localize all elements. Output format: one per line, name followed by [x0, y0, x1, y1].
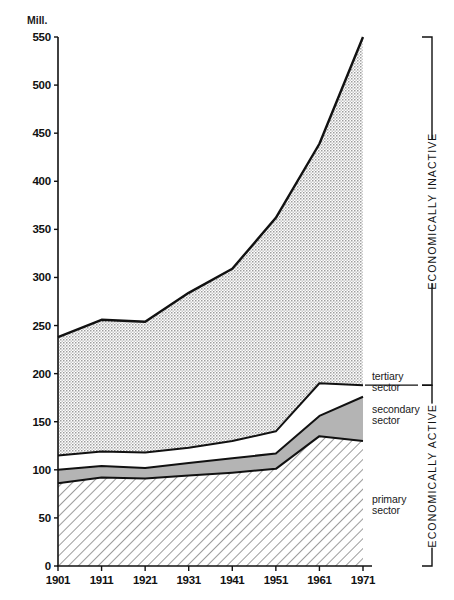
x-tick-label: 1961 [307, 574, 332, 586]
y-tick-label: 350 [32, 223, 51, 235]
chart-figure: 0501001502002503003504004505005501901191… [0, 0, 454, 600]
x-tick-label: 1911 [90, 574, 115, 586]
y-tick-label: 150 [32, 416, 51, 428]
y-tick-label: 0 [45, 560, 51, 572]
x-tick-label: 1941 [220, 574, 245, 586]
bracket-annotations: ECONOMICALLY INACTIVEECONOMICALLY ACTIVE [365, 37, 438, 566]
x-tick-label: 1921 [133, 574, 158, 586]
y-tick-label: 200 [32, 368, 51, 380]
x-tick-label: 1901 [46, 574, 71, 586]
economically-active-bracket-label: ECONOMICALLY ACTIVE [426, 404, 438, 548]
y-tick-label: 550 [32, 31, 51, 43]
y-tick-label: 50 [39, 512, 51, 524]
x-tick-label: 1951 [264, 574, 289, 586]
x-tick-label: 1931 [177, 574, 202, 586]
y-tick-label: 250 [32, 320, 51, 332]
economically-inactive-bracket-label: ECONOMICALLY INACTIVE [426, 133, 438, 290]
y-tick-label: 400 [32, 175, 51, 187]
y-tick-label: 450 [32, 127, 51, 139]
y-tick-label: 500 [32, 79, 51, 91]
stacked-area-chart: 0501001502002503003504004505005501901191… [0, 0, 454, 600]
y-tick-label: 300 [32, 271, 51, 283]
x-tick-label: 1971 [351, 574, 376, 586]
y-tick-label: 100 [32, 464, 51, 476]
area-layers [58, 37, 363, 566]
